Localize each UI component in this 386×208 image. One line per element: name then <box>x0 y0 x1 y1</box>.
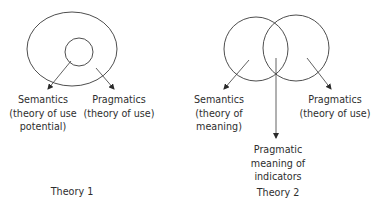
theory2-overlap-label: Pragmatic meaning of indicators <box>251 143 305 184</box>
theory2-semantics-line2: (theory of <box>194 107 244 121</box>
theory2-semantics-line3: meaning) <box>194 120 244 134</box>
theory1-pragmatics-line2: (theory of use) <box>83 107 154 121</box>
theory1-semantics-line2: (theory of use <box>9 107 76 121</box>
theory1-outer-ellipse <box>27 12 117 86</box>
theory2-overlap-line1: Pragmatic <box>251 143 305 157</box>
theory2-semantics-label: Semantics (theory of meaning) <box>194 93 244 134</box>
theory1-pragmatics-label: Pragmatics (theory of use) <box>83 93 154 120</box>
theory2-caption: Theory 2 <box>257 186 300 199</box>
theory2-pragmatics-line2: (theory of use) <box>299 107 370 121</box>
theory2-overlap-line3: indicators <box>251 170 305 184</box>
theory1-inner-circle <box>65 38 93 66</box>
theory1-diagram <box>27 12 117 89</box>
theory1-semantics-line3: potential) <box>9 120 76 134</box>
theory2-left-circle <box>224 17 288 81</box>
theory2-pragmatics-line1: Pragmatics <box>299 93 370 107</box>
theory2-pragmatics-arrow <box>307 58 331 89</box>
theory2-overlap-line2: meaning of <box>251 157 305 171</box>
theory1-semantics-label: Semantics (theory of use potential) <box>9 93 76 134</box>
theory2-semantics-line1: Semantics <box>194 93 244 107</box>
theory1-pragmatics-line1: Pragmatics <box>83 93 154 107</box>
theory2-pragmatics-label: Pragmatics (theory of use) <box>299 93 370 120</box>
theory1-caption: Theory 1 <box>51 185 94 198</box>
theory1-semantics-line1: Semantics <box>9 93 76 107</box>
theory2-right-circle <box>263 15 329 81</box>
